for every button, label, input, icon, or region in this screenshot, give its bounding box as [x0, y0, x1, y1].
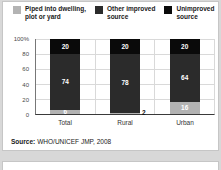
stacked-bar-rural: 27820: [110, 39, 140, 114]
bar-segment: 74: [50, 54, 80, 110]
y-axis: 020406080100%: [3, 39, 32, 115]
legend-item: Piped into dwelling, plot or yard: [13, 5, 86, 22]
y-tick-label: 20: [22, 97, 29, 103]
bar-segment: 6: [50, 110, 80, 115]
bar-segment: 20: [110, 39, 140, 54]
segment-value: 78: [110, 80, 140, 87]
next-card-edge: [2, 161, 219, 170]
legend-label: Other improved source: [107, 5, 155, 22]
y-tick-label: 40: [22, 82, 29, 88]
bar-segment: 16: [170, 102, 200, 114]
legend-item: Unimproved source: [164, 5, 214, 22]
source-text: WHO/UNICEF JMP, 2008: [37, 138, 111, 145]
category-cell-total: 67420: [36, 39, 96, 114]
bar-cells: 6742027820166420: [36, 39, 214, 114]
legend-label: Piped into dwelling, plot or yard: [25, 5, 86, 22]
chart-card: Piped into dwelling, plot or yardOther i…: [2, 1, 219, 151]
category-cell-rural: 27820: [96, 39, 156, 114]
bar-segment: 20: [170, 39, 200, 54]
plot-area: 6742027820166420: [35, 39, 215, 115]
segment-value: 16: [170, 105, 200, 112]
segment-value: 2: [140, 110, 146, 117]
x-axis-labels: TotalRuralUrban: [35, 119, 215, 126]
segment-value: 64: [170, 75, 200, 82]
x-category-label: Total: [35, 119, 95, 126]
legend-swatch: [164, 6, 172, 14]
segment-value: 20: [170, 43, 200, 50]
source-note: Source:WHO/UNICEF JMP, 2008: [11, 138, 111, 145]
segment-value: 20: [110, 43, 140, 50]
page: Piped into dwelling, plot or yardOther i…: [0, 0, 221, 170]
source-label: Source:: [11, 138, 35, 145]
bar-segment: 64: [170, 54, 200, 102]
y-tick-label: 80: [22, 51, 29, 57]
x-category-label: Rural: [95, 119, 155, 126]
x-category-label: Urban: [155, 119, 215, 126]
bar-segment: 2: [110, 113, 140, 115]
bar-segment: 78: [110, 54, 140, 113]
legend-item: Other improved source: [95, 5, 155, 22]
stacked-bar-total: 67420: [50, 39, 80, 114]
y-tick-label: 60: [22, 66, 29, 72]
y-tick-label: 0: [26, 112, 29, 118]
category-cell-urban: 166420: [155, 39, 214, 114]
segment-value: 20: [50, 43, 80, 50]
legend: Piped into dwelling, plot or yardOther i…: [13, 5, 218, 22]
stacked-bar-urban: 166420: [170, 39, 200, 114]
legend-swatch: [13, 6, 21, 14]
legend-label: Unimproved source: [176, 5, 214, 22]
legend-swatch: [95, 6, 103, 14]
segment-value: 74: [50, 79, 80, 86]
bar-segment: 20: [50, 39, 80, 54]
y-tick-label: 100%: [14, 36, 29, 42]
